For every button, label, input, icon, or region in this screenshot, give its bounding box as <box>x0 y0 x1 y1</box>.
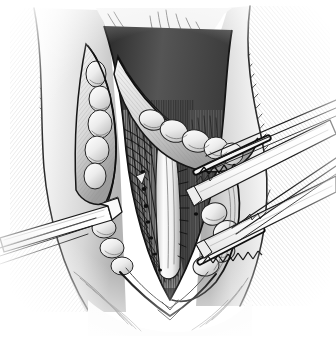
edge-vignette <box>0 0 336 338</box>
illustration-canvas: Surgical exposure of the operative field… <box>0 0 336 338</box>
surgical-illustration: Surgical exposure of the operative field… <box>0 0 336 338</box>
